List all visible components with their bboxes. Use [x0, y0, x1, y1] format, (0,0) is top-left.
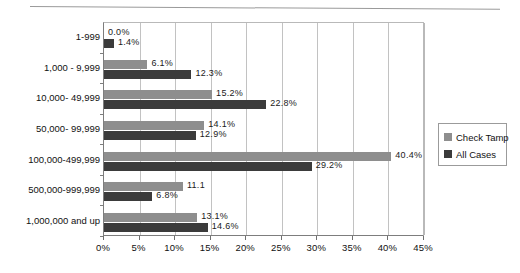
bar-check-tamp [104, 152, 391, 161]
x-tick-label: 45% [403, 242, 443, 253]
x-tick [281, 236, 282, 240]
category-label: 50,000- 99,999 [0, 123, 100, 134]
x-tick [387, 236, 388, 240]
legend-item[interactable]: All Cases [444, 148, 496, 160]
bar-row: 14.1%12.9% [104, 115, 423, 146]
category-label: 100,000-499,999 [0, 154, 100, 165]
gridline-45 [424, 23, 425, 235]
bar-row: 6.1%12.3% [104, 54, 423, 85]
bar-row: 13.1%14.6% [104, 206, 423, 237]
x-tick-label: 0% [83, 242, 123, 253]
bar-check-tamp [104, 121, 204, 130]
x-tick-label: 30% [296, 242, 336, 253]
bar-value-label: 12.9% [200, 129, 227, 139]
bar-row: 11.16.8% [104, 176, 423, 207]
bar-value-label: 12.3% [195, 68, 222, 78]
bar-value-label: 6.1% [151, 58, 173, 68]
chart-legend: Check TampAll Cases [438, 123, 507, 166]
bar-all-cases [104, 70, 191, 79]
bar-all-cases [104, 223, 208, 232]
bar-value-label: 15.2% [216, 88, 243, 98]
bar-value-label: 40.4% [395, 150, 422, 160]
bar-value-label: 14.1% [208, 119, 235, 129]
bar-row: 0.0%1.4% [104, 23, 423, 54]
bar-all-cases [104, 192, 152, 201]
x-tick [423, 236, 424, 240]
category-label: 500,000-999,999 [0, 184, 100, 195]
x-axis-tick-labels: 0%5%10%15%20%25%30%35%40%45% [0, 242, 520, 256]
x-tick-label: 25% [261, 242, 301, 253]
bar-all-cases [104, 162, 312, 171]
bar-rows: 0.0%1.4%6.1%12.3%15.2%22.8%14.1%12.9%40.… [104, 23, 423, 235]
bar-value-label: 13.1% [201, 211, 228, 221]
x-tick-label: 35% [332, 242, 372, 253]
x-tick-label: 15% [190, 242, 230, 253]
x-tick [245, 236, 246, 240]
x-tick [352, 236, 353, 240]
legend-swatch-icon [444, 133, 452, 141]
bar-value-label: 6.8% [156, 190, 178, 200]
plot-area: 0.0%1.4%6.1%12.3%15.2%22.8%14.1%12.9%40.… [103, 22, 424, 236]
bar-all-cases [104, 39, 114, 48]
x-tick-label: 5% [119, 242, 159, 253]
bar-value-label: 29.2% [316, 160, 343, 170]
legend-label: Check Tamp [456, 132, 509, 143]
x-tick [139, 236, 140, 240]
bar-all-cases [104, 131, 196, 140]
legend-label: All Cases [456, 149, 496, 160]
bar-chart: 1-9991,000 - 9,99910,000- 49,99950,000- … [0, 0, 520, 273]
bar-value-label: 22.8% [270, 98, 297, 108]
x-tick [103, 236, 104, 240]
bar-check-tamp [104, 213, 197, 222]
bar-check-tamp [104, 60, 147, 69]
bar-value-label: 11.1 [187, 180, 205, 190]
x-tick [174, 236, 175, 240]
bar-row: 15.2%22.8% [104, 84, 423, 115]
x-tick-label: 20% [225, 242, 265, 253]
bar-value-label: 14.6% [212, 221, 239, 231]
category-label: 10,000- 49,999 [0, 92, 100, 103]
category-label: 1-999 [0, 31, 100, 42]
x-tick [316, 236, 317, 240]
bar-value-label: 1.4% [118, 37, 140, 47]
x-tick [210, 236, 211, 240]
legend-swatch-icon [444, 150, 452, 158]
category-label: 1,000,000 and up [0, 215, 100, 226]
legend-item[interactable]: Check Tamp [444, 131, 509, 143]
bar-value-label: 0.0% [108, 27, 130, 37]
category-label: 1,000 - 9,999 [0, 62, 100, 73]
bar-row: 40.4%29.2% [104, 145, 423, 176]
bar-all-cases [104, 100, 266, 109]
bar-check-tamp [104, 90, 212, 99]
x-tick-label: 10% [154, 242, 194, 253]
x-tick-label: 40% [367, 242, 407, 253]
